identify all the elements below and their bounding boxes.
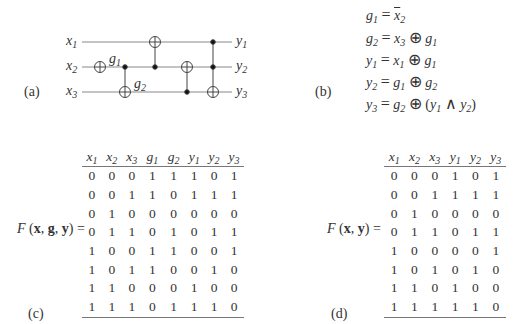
- table-cell: 1: [184, 298, 204, 317]
- table-cell: 1: [445, 167, 465, 186]
- equation-y2: y2 = g1 ⊕ g2: [366, 72, 437, 91]
- table-cell: 1: [404, 279, 424, 298]
- table-cell: 1: [102, 279, 122, 298]
- table-cell: 0: [404, 260, 424, 279]
- table-row: 100001: [384, 242, 506, 261]
- table-cell: 1: [204, 298, 224, 317]
- table-cell: 1: [102, 298, 122, 317]
- panel-b-label: (b): [315, 84, 331, 100]
- table-cell: 0: [445, 204, 465, 223]
- table-cell: 0: [102, 186, 122, 205]
- table-cell: 1: [404, 204, 424, 223]
- not-gate-x2: [95, 62, 106, 73]
- cnot-x2-to-x3: [120, 65, 131, 98]
- column-header: y2: [465, 148, 485, 167]
- cnot-x2-to-x1: [150, 37, 161, 70]
- table-cell: 1: [204, 186, 224, 205]
- table-cell: 0: [163, 260, 184, 279]
- table-cell: 0: [142, 204, 163, 223]
- table-cell: 1: [224, 167, 244, 186]
- table-cell: 1: [384, 260, 404, 279]
- table-cell: 0: [384, 186, 404, 205]
- table-cell: 0: [445, 242, 465, 261]
- table-row: 000101: [384, 167, 506, 186]
- table-cell: 1: [224, 223, 244, 242]
- table-cell: 0: [425, 167, 445, 186]
- table-cell: 0: [224, 204, 244, 223]
- table-row: 110100: [384, 279, 506, 298]
- table-cell: 0: [102, 242, 122, 261]
- table-row: 010000: [384, 204, 506, 223]
- table-cell: 1: [224, 186, 244, 205]
- table-cell: 0: [142, 279, 163, 298]
- table-cell: 0: [184, 204, 204, 223]
- table-cell: 0: [102, 260, 122, 279]
- table-row: 10110010: [82, 260, 244, 279]
- table-cell: 1: [465, 260, 485, 279]
- table-cell: 0: [204, 242, 224, 261]
- table-cell: 1: [384, 298, 404, 317]
- table-cell: 0: [425, 279, 445, 298]
- table-cell: 1: [122, 223, 142, 242]
- table-cell: 1: [163, 242, 184, 261]
- equation-y1: y1 = x1 ⊕ g1: [366, 50, 436, 69]
- table-cell: 0: [204, 167, 224, 186]
- table-cell: 1: [142, 186, 163, 205]
- table-cell: 1: [184, 167, 204, 186]
- table-cell: 1: [102, 223, 122, 242]
- table-cell: 1: [184, 186, 204, 205]
- table-cell: 1: [82, 279, 102, 298]
- table-cell: 0: [204, 204, 224, 223]
- table-cell: 1: [142, 260, 163, 279]
- table-cell: 1: [122, 298, 142, 317]
- equation-y3: y3 = g2 ⊕ (y1 ∧ y2): [366, 94, 476, 113]
- column-header: y3: [486, 148, 506, 167]
- table-cell: 1: [425, 298, 445, 317]
- table-cell: 0: [184, 242, 204, 261]
- table-row: 10011001: [82, 242, 244, 261]
- table-cell: 0: [465, 279, 485, 298]
- table-cell: 1: [404, 223, 424, 242]
- table-cell: 1: [445, 279, 465, 298]
- table-cell: 1: [142, 167, 163, 186]
- table-cell: 0: [486, 204, 506, 223]
- table-cell: 0: [486, 279, 506, 298]
- panel-c-label: (c): [28, 306, 44, 322]
- table-cell: 1: [486, 167, 506, 186]
- table-cell: 0: [82, 167, 102, 186]
- table-header-row: x1x2x3y1y2y3: [384, 148, 506, 167]
- table-row: 01101011: [82, 223, 244, 242]
- table-cell: 1: [163, 223, 184, 242]
- column-header: x1: [82, 148, 102, 167]
- column-header: y1: [184, 148, 204, 167]
- table-cell: 1: [486, 223, 506, 242]
- table-cell: 0: [122, 204, 142, 223]
- table-row: 00011101: [82, 167, 244, 186]
- column-header: g1: [142, 148, 163, 167]
- table-cell: 0: [163, 279, 184, 298]
- table-cell: 1: [465, 186, 485, 205]
- table-cell: 0: [425, 204, 445, 223]
- table-cell: 1: [163, 298, 184, 317]
- table-cell: 1: [486, 186, 506, 205]
- column-header: x2: [404, 148, 424, 167]
- table-row: 01000000: [82, 204, 244, 223]
- table-cell: 0: [163, 186, 184, 205]
- table-row: 00110111: [82, 186, 244, 205]
- function-label-c: F (x, g, y) =: [17, 221, 85, 237]
- table-cell: 0: [445, 260, 465, 279]
- truth-table-d: x1x2x3y1y2y30001010011110100000110111000…: [384, 148, 506, 318]
- table-cell: 1: [445, 298, 465, 317]
- table-cell: 0: [224, 279, 244, 298]
- table-cell: 1: [184, 279, 204, 298]
- table-cell: 1: [204, 223, 224, 242]
- table-cell: 1: [82, 242, 102, 261]
- table-cell: 0: [122, 167, 142, 186]
- table-cell: 0: [204, 279, 224, 298]
- table-cell: 0: [465, 167, 485, 186]
- table-cell: 0: [425, 242, 445, 261]
- toffoli-gate: [208, 40, 219, 98]
- column-header: g2: [163, 148, 184, 167]
- table-cell: 0: [404, 186, 424, 205]
- table-cell: 0: [102, 167, 122, 186]
